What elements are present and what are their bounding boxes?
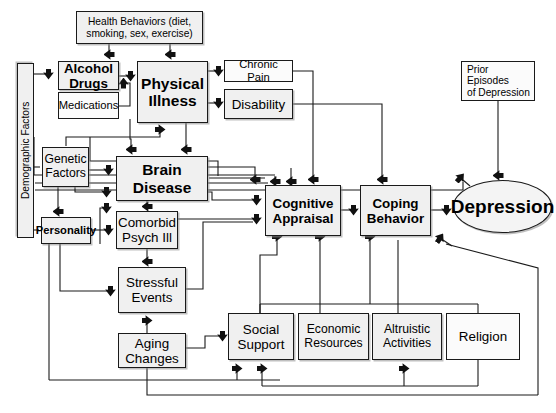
node-alcohol-drugs[interactable]: Alcohol Drugs	[58, 61, 119, 90]
node-label: Economic Resources	[302, 323, 364, 350]
node-stressful-events[interactable]: Stressful Events	[118, 267, 186, 313]
node-label: Depression	[449, 196, 556, 217]
node-economic-resources[interactable]: Economic Resources	[298, 313, 369, 360]
node-brain-disease[interactable]: Brain Disease	[116, 156, 208, 201]
node-label: Personality	[34, 224, 98, 237]
node-label: Prior Episodes of Depression	[462, 64, 534, 98]
node-disability[interactable]: Disability	[224, 89, 293, 119]
node-coping-behavior[interactable]: Coping Behavior	[360, 185, 431, 236]
node-label: Stressful Events	[124, 275, 180, 305]
node-label: Genetic Factors	[43, 153, 89, 180]
node-label: Physical Illness	[139, 75, 206, 110]
edge-aging-to-social	[186, 336, 219, 348]
node-social-support[interactable]: Social Support	[228, 313, 294, 360]
node-label: Cognitive Appraisal	[270, 196, 335, 226]
node-religion[interactable]: Religion	[446, 313, 520, 360]
node-demographic-factors[interactable]: Demographic Factors	[17, 63, 34, 238]
node-label: Medications	[57, 99, 121, 112]
node-prior-episodes[interactable]: Prior Episodes of Depression	[461, 61, 535, 101]
node-medications[interactable]: Medications	[58, 92, 119, 119]
node-physical-illness[interactable]: Physical Illness	[137, 61, 208, 123]
node-label: Alcohol Drugs	[62, 61, 115, 91]
node-cognitive-appraisal[interactable]: Cognitive Appraisal	[265, 185, 341, 236]
diagram-canvas: Demographic Factors Health Behaviors (di…	[0, 0, 556, 413]
node-label: Religion	[457, 329, 509, 344]
edge-personality-to-stressful	[60, 244, 107, 291]
node-comorbid-psych[interactable]: Comorbid Psych Ill	[116, 211, 178, 249]
edge-depression-feedback-head	[443, 240, 452, 246]
edge-chronicpain-to-cognitive	[293, 71, 313, 176]
node-label: Disability	[230, 97, 288, 112]
edge-disability-to-coping	[293, 104, 382, 176]
node-altruistic-activities[interactable]: Altruistic Activities	[372, 313, 442, 360]
edge-long-into-depression-head	[463, 180, 470, 186]
node-label: Aging Changes	[123, 336, 181, 366]
edge-aging-bottom-routing	[147, 368, 538, 395]
node-label: Social Support	[236, 322, 287, 352]
edge-stressful-to-cognitive-line	[186, 222, 253, 289]
edge-alcohol-to-brain	[130, 119, 131, 146]
node-label: Brain Disease	[131, 161, 194, 196]
node-genetic-factors[interactable]: Genetic Factors	[42, 147, 89, 187]
node-label: Chronic Pain	[225, 58, 292, 83]
edge-brain-to-cognitive-2	[208, 192, 253, 200]
edge-personality-to-brain	[100, 208, 103, 244]
node-depression[interactable]: Depression	[453, 180, 552, 233]
edge-medications-to-physical	[119, 83, 130, 106]
node-personality[interactable]: Personality	[41, 217, 91, 244]
node-label: Altruistic Activities	[381, 323, 433, 350]
node-label: Demographic Factors	[18, 102, 33, 199]
node-label: Coping Behavior	[365, 196, 426, 226]
node-aging-changes[interactable]: Aging Changes	[118, 333, 186, 368]
node-health-behaviors[interactable]: Health Behaviors (diet, smoking, sex, ex…	[76, 11, 203, 44]
node-chronic-pain[interactable]: Chronic Pain	[224, 60, 293, 82]
node-label: Comorbid Psych Ill	[116, 215, 178, 245]
edge-social-to-cognitive	[260, 240, 277, 313]
edge-genetic-to-physical	[66, 133, 160, 146]
node-label: Health Behaviors (diet, smoking, sex, ex…	[84, 16, 194, 39]
